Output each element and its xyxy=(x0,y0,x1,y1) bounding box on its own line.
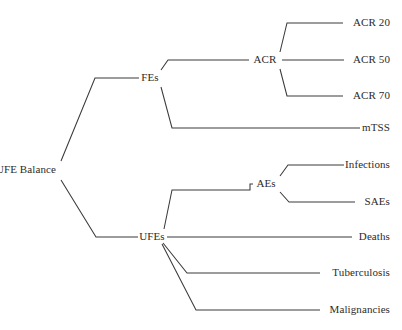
node-malignancies: Malignancies xyxy=(330,303,390,315)
node-fes: FEs xyxy=(141,71,158,83)
edge-aes-to-saes xyxy=(280,192,355,202)
edge-group xyxy=(61,23,360,310)
edge-ufes-to-malignancies xyxy=(162,244,320,310)
node-mtss: mTSS xyxy=(362,121,390,133)
edge-root-to-fes xyxy=(61,78,139,161)
tree-diagram-canvas: FE/UFE Balance FEs UFEs ACR AEs ACR 20 A… xyxy=(0,0,402,330)
node-saes: SAEs xyxy=(365,195,390,207)
node-acr: ACR xyxy=(254,53,277,65)
edge-acr-to-acr70 xyxy=(280,69,343,96)
node-acr-70: ACR 70 xyxy=(353,89,390,101)
node-tuberculosis: Tuberculosis xyxy=(332,266,390,278)
node-infections: Infections xyxy=(345,158,390,170)
node-acr-50: ACR 50 xyxy=(353,53,390,65)
edge-acr-to-acr20 xyxy=(280,23,343,52)
node-deaths: Deaths xyxy=(359,230,390,242)
edge-fes-to-mtss xyxy=(161,87,360,128)
node-aes: AEs xyxy=(256,177,275,189)
edge-ufes-to-tuberculosis xyxy=(163,243,320,273)
node-acr-20: ACR 20 xyxy=(353,16,390,28)
tree-diagram: FE/UFE Balance FEs UFEs ACR AEs ACR 20 A… xyxy=(0,0,402,330)
node-ufes: UFEs xyxy=(139,230,164,242)
edge-ufes-to-aes xyxy=(164,184,253,229)
edge-fes-to-acr xyxy=(161,60,249,70)
edge-root-to-ufes xyxy=(61,180,138,237)
node-root-fe-ufe-balance: FE/UFE Balance xyxy=(0,163,56,175)
edge-aes-to-infections xyxy=(280,165,344,176)
